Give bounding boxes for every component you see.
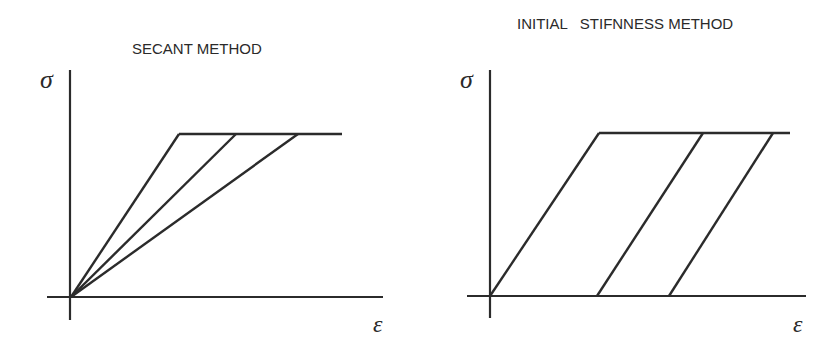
initial-stiffness-line-1 bbox=[490, 133, 599, 296]
secant-line-3 bbox=[71, 134, 298, 297]
secant-line-1 bbox=[71, 134, 179, 297]
initial-stiffness-line-3 bbox=[669, 133, 773, 296]
secant-line-2 bbox=[71, 134, 236, 297]
initial-stiffness-line-2 bbox=[597, 133, 703, 296]
figure: SECANT METHOD INITIAL STIFNNESS METHOD σ… bbox=[0, 0, 837, 350]
stress-strain-plots bbox=[0, 0, 837, 350]
initial-stiffness-method-plot bbox=[467, 70, 806, 318]
secant-method-plot bbox=[47, 70, 383, 320]
